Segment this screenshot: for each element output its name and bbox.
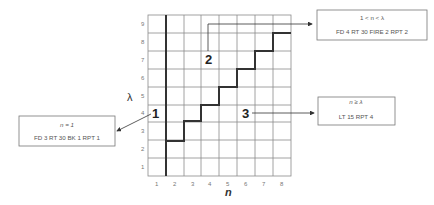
svg-text:LT 15 RPT 4: LT 15 RPT 4 — [339, 113, 374, 120]
leader-1 — [117, 114, 151, 131]
svg-text:3: 3 — [141, 128, 145, 134]
svg-text:1 < n < λ: 1 < n < λ — [360, 14, 385, 21]
box-n-gte-lambda: n ≥ λ LT 15 RPT 4 — [318, 97, 395, 125]
svg-text:2: 2 — [173, 181, 177, 187]
x-axis-ticks: 1 2 3 4 5 6 7 8 — [155, 181, 284, 187]
svg-text:4: 4 — [208, 181, 212, 187]
y-axis-label: λ — [127, 91, 133, 103]
svg-text:7: 7 — [141, 57, 145, 63]
svg-text:9: 9 — [141, 21, 145, 27]
svg-text:n ≥ λ: n ≥ λ — [349, 98, 362, 105]
svg-text:8: 8 — [141, 39, 145, 45]
box-1-lt-n-lt-lambda: 1 < n < λ FD 4 RT 30 FIRE 2 RPT 2 — [317, 10, 427, 40]
box-n-equals-1: n = 1 FD 3 RT 30 BK 1 RPT 1 — [19, 116, 115, 146]
svg-text:8: 8 — [280, 181, 284, 187]
region-label-3: 3 — [242, 106, 249, 121]
svg-text:FD 3 RT 30 BK 1 RPT 1: FD 3 RT 30 BK 1 RPT 1 — [34, 134, 101, 141]
svg-text:6: 6 — [141, 75, 145, 81]
region-label-1: 1 — [152, 106, 159, 121]
svg-text:5: 5 — [141, 93, 145, 99]
svg-text:1: 1 — [141, 164, 145, 170]
svg-text:3: 3 — [191, 181, 195, 187]
svg-text:2: 2 — [141, 146, 145, 152]
y-axis-ticks: 1 2 3 4 5 6 7 8 9 — [141, 21, 145, 170]
leader-2 — [208, 24, 312, 51]
svg-text:n = 1: n = 1 — [60, 121, 74, 128]
svg-text:4: 4 — [141, 110, 145, 116]
svg-text:6: 6 — [244, 181, 248, 187]
svg-text:1: 1 — [155, 181, 159, 187]
svg-text:FD 4 RT 30 FIRE 2 RPT 2: FD 4 RT 30 FIRE 2 RPT 2 — [336, 28, 408, 35]
region-label-2: 2 — [205, 52, 212, 67]
svg-text:7: 7 — [262, 181, 266, 187]
region-diagram: 1 2 3 4 5 6 7 8 9 1 2 3 4 5 6 7 8 λ n 1 … — [0, 0, 434, 205]
x-axis-label: n — [225, 186, 232, 198]
